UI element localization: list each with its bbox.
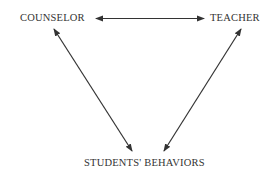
counselor-students-arrow (54, 29, 132, 151)
counselor-label: COUNSELOR (20, 12, 85, 23)
teacher-label: TEACHER (210, 12, 260, 23)
diagram: COUNSELOR TEACHER STUDENTS' BEHAVIORS (0, 0, 269, 179)
students-behaviors-label: STUDENTS' BEHAVIORS (84, 157, 205, 168)
teacher-students-arrow (164, 29, 241, 151)
arrows-layer (0, 0, 269, 179)
